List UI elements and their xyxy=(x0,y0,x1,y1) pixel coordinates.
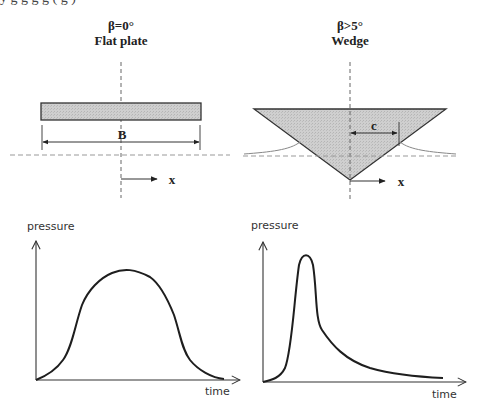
wedge-x-label: x xyxy=(398,174,405,189)
wedge-spray-left xyxy=(244,142,300,154)
flat-plate-body xyxy=(41,103,201,120)
wedge-pressure-plot: pressure time xyxy=(251,219,466,401)
flat-plate-panel: β=0° Flat plate B x xyxy=(10,18,230,198)
flat-plate-x-label: x xyxy=(169,172,176,187)
wedge-x-axis-label: time xyxy=(432,388,457,401)
cropped-caption: y g g g g ( g ) xyxy=(0,0,76,6)
b-dimension-label: B xyxy=(118,127,127,142)
flat-plate-angle-label: β=0° xyxy=(108,18,134,33)
wedge-title: Wedge xyxy=(331,33,369,48)
slamming-diagram: y g g g g ( g ) β=0° Flat plate B x β>5°… xyxy=(0,0,498,411)
c-dimension-label: c xyxy=(371,118,377,133)
flat-plate-pressure-curve xyxy=(36,270,224,380)
wedge-pressure-curve xyxy=(263,255,443,382)
flat-plate-pressure-plot: pressure time xyxy=(27,220,240,398)
wedge-panel: β>5° Wedge c x xyxy=(243,18,459,200)
flat-plate-title: Flat plate xyxy=(94,33,147,48)
flat-plate-x-axis-label: time xyxy=(205,385,230,398)
wedge-spray-right xyxy=(400,142,456,154)
wedge-y-axis-label: pressure xyxy=(251,219,299,232)
flat-plate-y-axis-label: pressure xyxy=(27,220,75,233)
wedge-angle-label: β>5° xyxy=(337,18,363,33)
cropped-caption-text: y g g g g ( g ) xyxy=(0,0,76,6)
